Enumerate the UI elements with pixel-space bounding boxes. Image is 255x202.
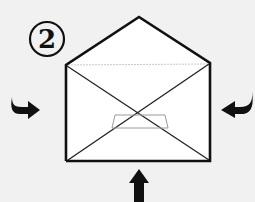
bottom-arrow-icon bbox=[129, 169, 149, 202]
step-number: 2 bbox=[30, 22, 64, 56]
right-arrow-icon bbox=[221, 92, 253, 118]
envelope-folding-diagram: 2 bbox=[0, 0, 255, 202]
envelope-body bbox=[66, 17, 210, 161]
left-arrow-icon bbox=[11, 97, 40, 119]
